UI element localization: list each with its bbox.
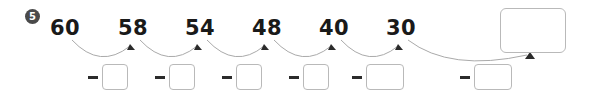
operation-group-3 [222,64,262,90]
minus-icon-4 [289,76,299,79]
worksheet-exercise: 5 60 58 54 48 40 30 [0,0,592,99]
minus-icon-2 [155,76,165,79]
operation-group-1 [88,64,128,90]
operation-group-5 [352,64,404,90]
arc-icon-1 [72,40,130,57]
answer-input-2[interactable] [169,64,195,90]
answer-input-4[interactable] [303,64,329,90]
arc-icon-4 [274,40,331,57]
answer-input-1[interactable] [102,64,128,90]
arc-icon-5 [341,40,398,57]
operation-group-4 [289,64,329,90]
operation-group-6 [460,64,512,90]
operation-group-2 [155,64,195,90]
arc-icon-2 [140,40,197,57]
minus-icon-3 [222,76,232,79]
answer-input-5[interactable] [366,64,404,90]
answer-input-3[interactable] [236,64,262,90]
minus-icon-5 [352,76,362,79]
arc-icon-3 [207,40,264,57]
answer-input-6[interactable] [474,64,512,90]
minus-icon-6 [460,76,470,79]
final-answer-input[interactable] [500,8,566,53]
minus-icon-1 [88,76,98,79]
